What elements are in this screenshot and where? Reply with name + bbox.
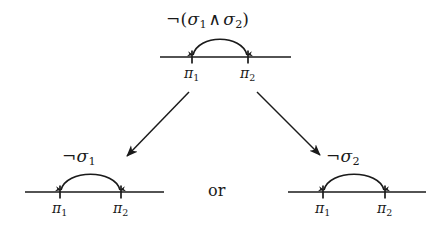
pi-symbol: π <box>52 200 61 216</box>
top-node-graphics <box>160 39 291 63</box>
top-arc <box>193 39 247 55</box>
close-paren: ) <box>242 9 249 29</box>
bottom-left-arc <box>61 174 120 190</box>
bottom-left-tick-label-right: π2 <box>113 200 128 218</box>
top-tick-label-right: π2 <box>240 65 255 83</box>
bottom-right-tick-label-right: π2 <box>377 200 392 218</box>
bottom-left-tick-label-left: π1 <box>52 200 67 218</box>
pi-subscript: 2 <box>122 207 128 218</box>
pi-subscript: 1 <box>193 72 199 83</box>
negation-icon: ¬ <box>62 146 77 166</box>
bottom-left-node-formula: ¬σ1 <box>62 146 96 168</box>
top-node-formula: ¬(σ1 ∧ σ2) <box>166 9 249 31</box>
bottom-right-arc <box>324 174 384 190</box>
branch-arrow-left <box>127 92 189 156</box>
pi-symbol: π <box>240 65 249 81</box>
negation-icon: ¬ <box>326 146 341 166</box>
sigma-subscript: 2 <box>352 155 359 168</box>
pi-symbol: π <box>315 200 324 216</box>
pi-subscript: 2 <box>249 72 255 83</box>
or-connective-label: or <box>208 181 225 200</box>
wedge-icon: ∧ <box>209 9 222 29</box>
top-tick-label-left: π1 <box>184 65 199 83</box>
pi-symbol: π <box>184 65 193 81</box>
negation-icon: ¬ <box>166 9 181 29</box>
pi-subscript: 1 <box>324 207 330 218</box>
sigma-1-symbol: σ <box>187 9 199 29</box>
bottom-right-node-graphics <box>288 174 426 198</box>
sigma-1-subscript: 1 <box>199 18 206 31</box>
sigma-subscript: 1 <box>88 155 95 168</box>
pi-subscript: 1 <box>61 207 67 218</box>
pi-subscript: 2 <box>386 207 392 218</box>
sigma-symbol: σ <box>341 146 353 166</box>
bottom-right-node-formula: ¬σ2 <box>326 146 360 168</box>
pi-symbol: π <box>377 200 386 216</box>
derivation-figure: ¬(σ1 ∧ σ2) π1 π2 ¬σ1 π1 π2 or ¬σ2 π1 π2 <box>0 0 446 232</box>
bottom-left-node-graphics <box>25 174 164 198</box>
branch-arrow-right <box>257 92 320 155</box>
bottom-right-tick-label-left: π1 <box>315 200 330 218</box>
sigma-symbol: σ <box>77 146 89 166</box>
sigma-2-symbol: σ <box>223 9 235 29</box>
pi-symbol: π <box>113 200 122 216</box>
